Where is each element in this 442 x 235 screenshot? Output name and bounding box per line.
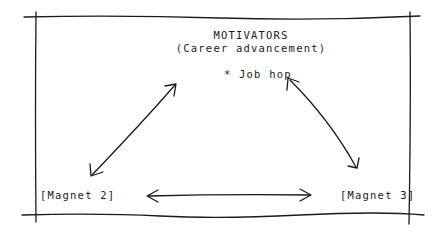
node-job-hop: * Job hop xyxy=(224,68,292,80)
arrow-top-left xyxy=(92,85,175,175)
arrow-bottom xyxy=(148,195,310,196)
arrow-top-right xyxy=(290,80,356,167)
node-magnet-3: [Magnet 3] xyxy=(340,189,415,201)
diagram-canvas: MOTIVATORS (Career advancement) * Job ho… xyxy=(0,0,442,235)
frame-bottom-line xyxy=(22,213,424,217)
frame-top-line xyxy=(24,16,420,19)
diagram-subtitle: (Career advancement) xyxy=(0,42,442,54)
diagram-title: MOTIVATORS xyxy=(0,29,442,41)
node-magnet-2: [Magnet 2] xyxy=(40,189,115,201)
